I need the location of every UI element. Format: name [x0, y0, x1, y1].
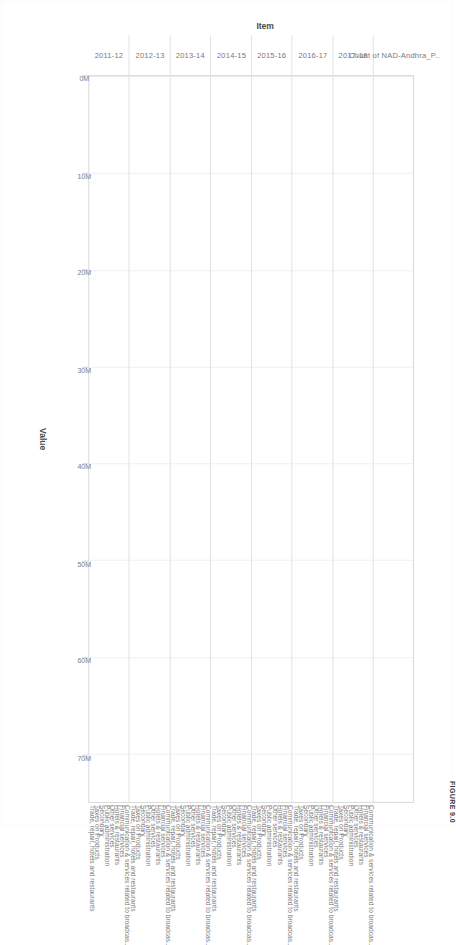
- bar-row[interactable]: Financial services: [281, 75, 286, 803]
- bar-row[interactable]: Other services: [190, 75, 195, 803]
- bar-row[interactable]: Financial services: [363, 75, 368, 803]
- item-axis-title: Item: [102, 19, 428, 33]
- bar-row[interactable]: Hotels & restaurants: [154, 75, 159, 803]
- year-group-bars: Communication & services related to broa…: [251, 75, 292, 803]
- bar-row[interactable]: Other services: [149, 75, 154, 803]
- year-group-label: 2011-12: [88, 35, 129, 75]
- bar-row[interactable]: Other services: [271, 75, 276, 803]
- value-axis-tick-label: 10M: [77, 172, 91, 179]
- bar-chart-figure: Item Count of NAD-Andhra_P..2017-182016-…: [26, 17, 428, 811]
- bar-row[interactable]: Secondary: [98, 75, 103, 803]
- bar-row[interactable]: Public administration: [226, 75, 231, 803]
- bar-row[interactable]: Trade, repair, hotels and restaurants: [252, 75, 257, 803]
- year-group-label-text: 2014-15: [216, 50, 245, 59]
- year-group-bars: Communication & services related to broa…: [210, 75, 251, 803]
- item-axis-title-text: Item: [256, 21, 274, 31]
- bar-row[interactable]: Taxes on Products: [257, 75, 262, 803]
- bar-row[interactable]: Other services: [231, 75, 236, 803]
- bar-row[interactable]: Secondary: [262, 75, 267, 803]
- bar-row[interactable]: Secondary: [180, 75, 185, 803]
- bar-row[interactable]: Public administration: [144, 75, 149, 803]
- value-axis-tick-label: 30M: [77, 366, 91, 373]
- bar-row[interactable]: Trade, repair, hotels and restaurants: [211, 75, 216, 803]
- bar-row[interactable]: Communication & services related to broa…: [123, 75, 128, 803]
- measure-title: Count of NAD-Andhra_P..: [373, 35, 414, 75]
- value-axis-title: Value: [36, 75, 48, 803]
- bar-row[interactable]: Public administration: [348, 75, 353, 803]
- bar-row[interactable]: Hotels & restaurants: [236, 75, 241, 803]
- bar-row[interactable]: Trade, repair, hotels and restaurants: [130, 75, 135, 803]
- value-axis: 0M10M20M30M40M50M60M70M: [66, 75, 88, 803]
- value-axis-tick-label: 60M: [77, 657, 91, 664]
- bar-row[interactable]: Hotels & restaurants: [195, 75, 200, 803]
- year-group-bars: Communication & services related to broa…: [169, 75, 210, 803]
- measure-header-block: [373, 75, 414, 803]
- bar-row[interactable]: Taxes on Products: [134, 75, 139, 803]
- bar-row[interactable]: Public administration: [103, 75, 108, 803]
- bar-row[interactable]: Secondary: [302, 75, 307, 803]
- bar-row[interactable]: Communication & services related to broa…: [205, 75, 210, 803]
- value-axis-tick-label: 50M: [77, 560, 91, 567]
- bar-row[interactable]: Public administration: [307, 75, 312, 803]
- bar-row[interactable]: Financial services: [241, 75, 246, 803]
- bar-row[interactable]: Hotels & restaurants: [276, 75, 281, 803]
- bar-row[interactable]: Financial services: [200, 75, 205, 803]
- bar-row[interactable]: Taxes on Products: [297, 75, 302, 803]
- bar-row[interactable]: Trade, repair, hotels and restaurants: [88, 75, 93, 803]
- bar-row[interactable]: Other services: [108, 75, 113, 803]
- year-group-bars: Communication & services related to broa…: [332, 75, 373, 803]
- year-group-label: 2013-14: [169, 35, 210, 75]
- bar-row[interactable]: Hotels & restaurants: [113, 75, 118, 803]
- figure-caption: FIGURE 9.0: [449, 781, 456, 823]
- bar-row[interactable]: Taxes on Products: [175, 75, 180, 803]
- bar-row[interactable]: Taxes on Products: [93, 75, 98, 803]
- year-group-label-text: 2011-12: [94, 50, 123, 59]
- year-group-label: 2012-13: [129, 35, 170, 75]
- bar-row[interactable]: Financial services: [118, 75, 123, 803]
- year-group-column: Count of NAD-Andhra_P..2017-182016-17201…: [88, 35, 414, 76]
- bar-row[interactable]: Communication & services related to broa…: [327, 75, 332, 803]
- bar-row[interactable]: Trade, repair, hotels and restaurants: [333, 75, 338, 803]
- bar-row[interactable]: Taxes on Products: [216, 75, 221, 803]
- bar-row[interactable]: Secondary: [221, 75, 226, 803]
- value-axis-tick-label: 20M: [77, 269, 91, 276]
- bar-row[interactable]: Hotels & restaurants: [358, 75, 363, 803]
- bar-row[interactable]: Communication & services related to broa…: [368, 75, 373, 803]
- bar-row[interactable]: Trade, repair, hotels and restaurants: [292, 75, 297, 803]
- bar-row[interactable]: Taxes on Products: [338, 75, 343, 803]
- year-group-bars: Communication & services related to broa…: [129, 75, 170, 803]
- year-group-label-text: 2012-13: [135, 50, 164, 59]
- bar-row[interactable]: Public administration: [267, 75, 272, 803]
- bar-row[interactable]: Financial services: [159, 75, 164, 803]
- year-group-bars: Communication & services related to broa…: [88, 75, 129, 803]
- bar-row[interactable]: Hotels & restaurants: [317, 75, 322, 803]
- bar-row[interactable]: Secondary: [343, 75, 348, 803]
- year-group-label-text: 2013-14: [176, 50, 205, 59]
- bar-row[interactable]: Communication & services related to broa…: [164, 75, 169, 803]
- bar-row[interactable]: Communication & services related to broa…: [246, 75, 251, 803]
- bar-row[interactable]: Secondary: [139, 75, 144, 803]
- year-group-bars: Communication & services related to broa…: [291, 75, 332, 803]
- bars-area: Communication & services related to broa…: [88, 75, 414, 803]
- value-axis-tick-label: 70M: [77, 754, 91, 761]
- bar-row[interactable]: Financial services: [322, 75, 327, 803]
- year-group-label-text: 2015-16: [257, 50, 286, 59]
- year-group-label: 2017-18: [332, 35, 373, 75]
- bar-row[interactable]: Trade, repair, hotels and restaurants: [170, 75, 175, 803]
- bar-row[interactable]: Public administration: [185, 75, 190, 803]
- value-axis-tick-label: 0M: [79, 75, 89, 82]
- value-axis-tick-label: 40M: [77, 463, 91, 470]
- bar-row[interactable]: Other services: [353, 75, 358, 803]
- year-group-label-text: 2016-17: [298, 50, 327, 59]
- bar-row[interactable]: Communication & services related to broa…: [286, 75, 291, 803]
- rotated-figure-wrapper: Item Count of NAD-Andhra_P..2017-182016-…: [26, 17, 428, 811]
- category-label: Trade, repair, hotels and restaurants: [87, 804, 94, 911]
- bar-row[interactable]: Other services: [312, 75, 317, 803]
- year-group-label: 2016-17: [291, 35, 332, 75]
- year-group-label-text: 2017-18: [338, 50, 367, 59]
- year-group-label: 2014-15: [210, 35, 251, 75]
- year-group-label: 2015-16: [251, 35, 292, 75]
